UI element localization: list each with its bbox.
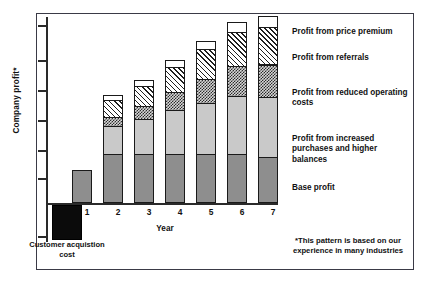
- bar-segment-base: [72, 170, 92, 203]
- x-tick-label-5: 5: [196, 207, 226, 217]
- bar-year-4: [165, 56, 185, 203]
- plot-area: [46, 17, 286, 203]
- bar-year-6: [227, 19, 247, 203]
- bar-segment-referrals: [227, 32, 247, 67]
- bar-segment-base: [134, 154, 154, 203]
- bar-segment-opcosts: [227, 66, 247, 97]
- bar-segment-opcosts: [165, 92, 185, 111]
- bar-segment-referrals: [165, 67, 185, 93]
- bar-segment-base: [258, 157, 278, 203]
- y-axis-tick: [38, 236, 47, 238]
- bar-segment-purchases: [227, 96, 247, 155]
- bar-segment-base: [165, 154, 185, 203]
- acquisition-cost-label: Customer acquistion cost: [26, 240, 108, 259]
- bar-segment-base: [103, 154, 123, 203]
- bar-segment-purchases: [196, 103, 216, 155]
- bar-year-2: [103, 91, 123, 203]
- bar-segment-opcosts: [134, 106, 154, 120]
- bar-segment-base: [227, 154, 247, 203]
- x-tick-label-3: 3: [134, 207, 164, 217]
- y-axis-title: Company profit*: [12, 41, 21, 161]
- bar-year-5: [196, 37, 216, 203]
- x-axis-title: Year: [120, 224, 210, 233]
- x-tick-label-2: 2: [103, 207, 133, 217]
- x-tick-label-6: 6: [227, 207, 257, 217]
- bar-segment-purchases: [103, 126, 123, 154]
- bar-segment-opcosts: [196, 79, 216, 104]
- legend-label-price-premium: Profit from price premium: [292, 27, 414, 37]
- bar-year-7: [258, 17, 278, 203]
- chart-footnote: *This pattern is based on our experience…: [286, 236, 410, 256]
- bar-year-3: [134, 76, 154, 203]
- legend-label-purchases: Profit from increased purchases and high…: [292, 134, 414, 165]
- legend-label-referrals: Profit from referrals: [292, 53, 414, 63]
- bar-segment-referrals: [258, 27, 278, 65]
- x-tick-label-4: 4: [165, 207, 195, 217]
- bar-segment-purchases: [258, 97, 278, 158]
- bar-segment-base: [196, 154, 216, 203]
- legend-label-base-profit: Base profit: [292, 183, 414, 193]
- legend-label-operating-costs: Profit from reduced operating costs: [292, 88, 414, 109]
- x-tick-label-1: 1: [72, 207, 102, 217]
- bar-segment-opcosts: [258, 65, 278, 99]
- bar-segment-referrals: [134, 86, 154, 107]
- chart-figure: Company profit* Customer acquistion cost…: [0, 0, 422, 287]
- bar-segment-referrals: [103, 100, 123, 118]
- bar-year-1: [72, 170, 92, 203]
- bar-segment-purchases: [165, 110, 185, 155]
- bar-segment-purchases: [134, 119, 154, 154]
- x-tick-label-7: 7: [258, 207, 288, 217]
- bar-segment-referrals: [196, 49, 216, 80]
